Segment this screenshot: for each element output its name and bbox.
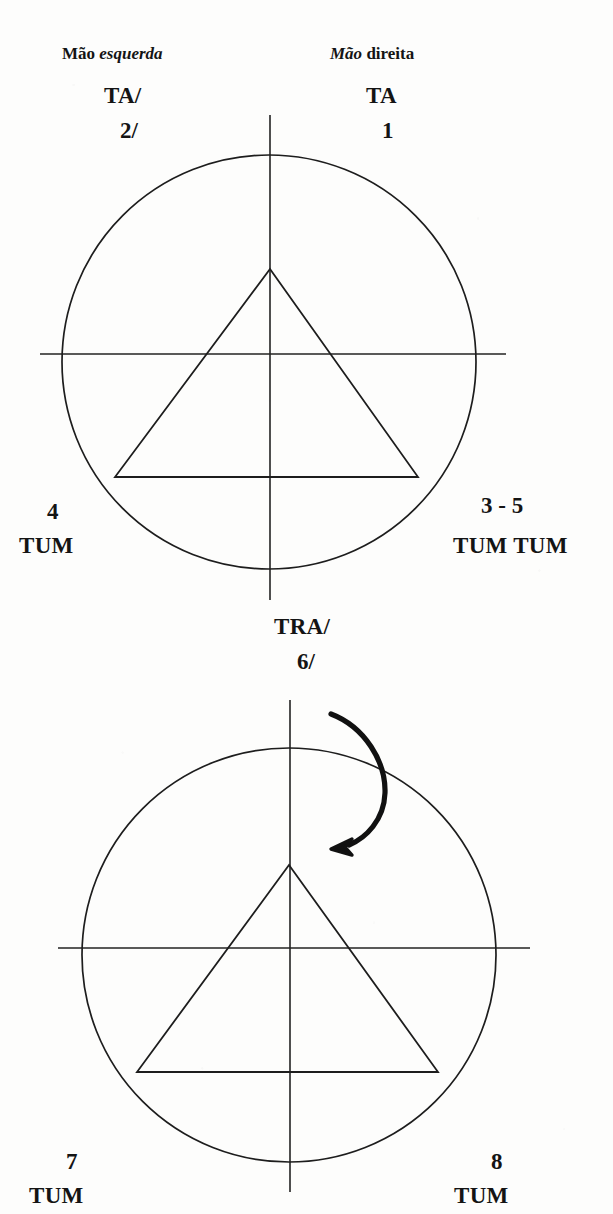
figure-top-group xyxy=(40,115,506,600)
circle-bottom xyxy=(82,748,496,1162)
label-top-bottomleft-stroke: TUM xyxy=(19,534,74,557)
circle-top xyxy=(62,155,476,569)
label-bottom-bottomleft-stroke: TUM xyxy=(29,1184,84,1207)
label-top-right-count: 1 xyxy=(382,119,394,142)
stroke-notation-figure xyxy=(0,0,613,1214)
label-bottom-bottomleft-count: 7 xyxy=(66,1150,78,1173)
hand-label-right: Mão direita xyxy=(313,28,414,79)
hand-label-left-word1: Mão xyxy=(62,44,95,63)
rotation-arrow-icon xyxy=(331,714,385,855)
triangle-top xyxy=(115,269,418,477)
hand-label-right-word2: direita xyxy=(366,44,414,63)
label-bottom-bottomright-stroke: TUM xyxy=(454,1184,509,1207)
label-top-bottomright-count: 3 - 5 xyxy=(481,494,523,517)
label-top-left-stroke: TA/ xyxy=(104,84,142,107)
label-top-bottomleft-count: 4 xyxy=(47,500,59,523)
triangle-bottom xyxy=(137,865,438,1072)
hand-label-right-word1: Mão xyxy=(330,44,362,63)
hand-label-left-word2: esquerda xyxy=(99,44,162,63)
label-bottom-top-count: 6/ xyxy=(297,650,315,673)
label-bottom-top-stroke: TRA/ xyxy=(274,615,330,638)
hand-label-left: Mão esquerda xyxy=(45,28,163,79)
label-top-right-stroke: TA xyxy=(366,84,397,107)
label-bottom-bottomright-count: 8 xyxy=(491,1150,503,1173)
diagram-page: Mão esquerda Mão direita TA/ 2/ TA 1 4 T… xyxy=(0,0,613,1214)
figure-bottom-group xyxy=(58,700,530,1192)
label-top-left-count: 2/ xyxy=(120,119,138,142)
label-top-bottomright-stroke: TUM TUM xyxy=(453,534,568,557)
